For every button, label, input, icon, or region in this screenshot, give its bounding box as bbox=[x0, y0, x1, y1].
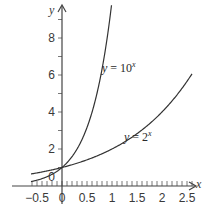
x-tick-label: 2 bbox=[159, 191, 166, 205]
label-10-pow-x: y = 10x bbox=[101, 60, 136, 75]
y-tick-label: 2 bbox=[48, 142, 55, 156]
label-2-pow-x-rest: = 2 bbox=[129, 130, 148, 144]
y-tick-label: 0 bbox=[48, 170, 55, 184]
label-2-pow-x-exp: x bbox=[147, 129, 152, 138]
label-10-pow-x-exp: x bbox=[131, 60, 136, 69]
label-10-pow-x-rest: = 10 bbox=[107, 61, 132, 75]
x-minor-ticks bbox=[32, 181, 192, 186]
x-tick-label: 1.5 bbox=[129, 191, 146, 205]
exponential-chart: y x −0.500.511.522.5 02468 y = 10x y = 2… bbox=[0, 0, 203, 206]
y-tick-labels: 02468 bbox=[48, 31, 55, 184]
x-tick-label: −0.5 bbox=[25, 191, 49, 205]
x-axis-label: x bbox=[195, 177, 202, 191]
x-tick-label: 2.5 bbox=[179, 191, 196, 205]
x-tick-label: 1 bbox=[109, 191, 116, 205]
curve-2-pow-x bbox=[31, 74, 192, 174]
y-tick-label: 4 bbox=[48, 105, 55, 119]
y-tick-label: 8 bbox=[48, 31, 55, 45]
y-axis-label: y bbox=[48, 3, 55, 17]
x-tick-label: 0 bbox=[59, 191, 66, 205]
y-tick-label: 6 bbox=[48, 68, 55, 82]
x-tick-labels: −0.500.511.522.5 bbox=[25, 191, 196, 205]
x-tick-label: 0.5 bbox=[79, 191, 96, 205]
label-2-pow-x: y = 2x bbox=[123, 129, 152, 144]
